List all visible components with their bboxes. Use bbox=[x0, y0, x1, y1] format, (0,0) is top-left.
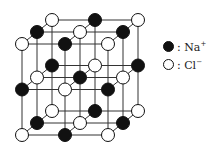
cl-ion bbox=[102, 129, 115, 142]
na-ion bbox=[89, 14, 102, 27]
na-ion-icon bbox=[163, 41, 174, 52]
na-ion bbox=[132, 59, 145, 72]
cl-ion bbox=[16, 38, 29, 51]
cl-ion bbox=[46, 14, 59, 27]
nacl-lattice-diagram bbox=[0, 0, 160, 155]
cl-ion bbox=[46, 105, 59, 118]
na-ion bbox=[117, 26, 130, 39]
na-ion bbox=[31, 117, 44, 130]
cl-ion bbox=[132, 105, 145, 118]
legend-cl-label: : Cl− bbox=[177, 58, 202, 72]
cl-ion bbox=[117, 71, 130, 84]
cl-ion-icon bbox=[163, 59, 174, 70]
legend-na: : Na+ bbox=[163, 40, 206, 54]
cl-ion bbox=[74, 26, 87, 39]
legend-na-label: : Na+ bbox=[177, 40, 206, 54]
na-ion bbox=[74, 71, 87, 84]
na-ion bbox=[59, 38, 72, 51]
na-ion bbox=[102, 83, 115, 96]
cl-ion bbox=[89, 59, 102, 72]
legend-cl: : Cl− bbox=[163, 58, 202, 72]
cl-ion bbox=[102, 38, 115, 51]
cl-ion bbox=[31, 71, 44, 84]
na-ion bbox=[59, 129, 72, 142]
cl-ion bbox=[132, 14, 145, 27]
cl-ion bbox=[59, 83, 72, 96]
na-ion bbox=[89, 105, 102, 118]
na-ion bbox=[46, 59, 59, 72]
na-ion bbox=[31, 26, 44, 39]
cl-ion bbox=[16, 129, 29, 142]
na-ion bbox=[117, 117, 130, 130]
na-ion bbox=[16, 83, 29, 96]
cl-ion bbox=[74, 117, 87, 130]
